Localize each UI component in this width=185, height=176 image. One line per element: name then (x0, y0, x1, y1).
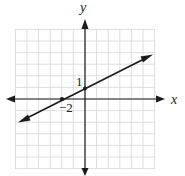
y-axis-down-arrow-icon (82, 168, 89, 176)
x-intercept-label: −2 (59, 100, 73, 115)
y-axis (82, 19, 89, 176)
line-lower-left-arrow-icon (18, 115, 31, 123)
y-axis-up-arrow-icon (82, 19, 89, 29)
x-axis-left-arrow-icon (6, 96, 15, 103)
line-upper-right-arrow-icon (141, 55, 154, 63)
x-axis-label: x (170, 92, 178, 107)
y-axis-label: y (78, 0, 87, 15)
x-axis-right-arrow-icon (156, 96, 165, 103)
y-intercept-label: 1 (76, 74, 83, 89)
y-intercept-point (83, 87, 87, 91)
coordinate-graph: y x 1 −2 (0, 0, 185, 176)
